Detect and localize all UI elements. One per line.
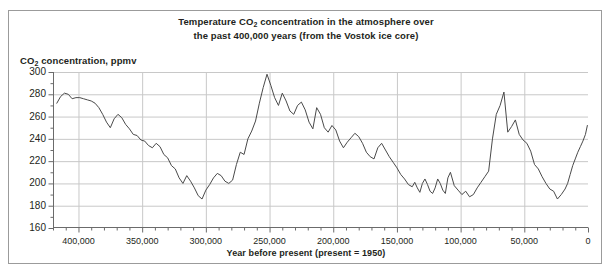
plot-background bbox=[53, 72, 588, 228]
y-tick-label: 240 bbox=[12, 134, 46, 144]
x-tick-label: 300,000 bbox=[190, 237, 223, 246]
y-tick-label: 280 bbox=[12, 89, 46, 99]
chart-title-subscript: 2 bbox=[253, 21, 257, 28]
chart-title: Temperature CO2 concentration in the atm… bbox=[0, 15, 612, 42]
chart-title-line1-pre: Temperature CO bbox=[178, 16, 253, 27]
x-tick-label: 250,000 bbox=[253, 237, 286, 246]
x-tick-label: 50,000 bbox=[511, 237, 539, 246]
x-tick-label: 150,000 bbox=[381, 237, 414, 246]
y-tick-label: 200 bbox=[12, 178, 46, 188]
chart-title-line1-post: concentration in the atmosphere over bbox=[257, 16, 433, 27]
chart-screenshot: Temperature CO2 concentration in the atm… bbox=[0, 0, 612, 276]
y-tick-label: 180 bbox=[12, 201, 46, 211]
y-tick-label: 220 bbox=[12, 156, 46, 166]
x-tick-label: 350,000 bbox=[126, 237, 159, 246]
chart-title-line2: the past 400,000 years (from the Vostok … bbox=[0, 29, 612, 42]
y-tick-label: 300 bbox=[12, 67, 46, 77]
plot-area bbox=[53, 72, 588, 228]
x-axis-label: Year before present (present = 1950) bbox=[0, 248, 612, 258]
y-tick-label: 260 bbox=[12, 112, 46, 122]
x-tick-label: 100,000 bbox=[444, 237, 477, 246]
y-axis-label: CO2 concentration, ppmv bbox=[20, 55, 137, 66]
y-axis-label-pre: CO bbox=[20, 55, 34, 66]
chart-title-line1: Temperature CO2 concentration in the atm… bbox=[178, 16, 433, 27]
x-tick-label: 400,000 bbox=[62, 237, 95, 246]
y-tick-label: 160 bbox=[12, 223, 46, 233]
plot-svg bbox=[53, 72, 588, 228]
y-axis-label-post: concentration, ppmv bbox=[38, 55, 136, 66]
x-tick-label: 0 bbox=[585, 237, 590, 246]
x-tick-label: 200,000 bbox=[317, 237, 350, 246]
